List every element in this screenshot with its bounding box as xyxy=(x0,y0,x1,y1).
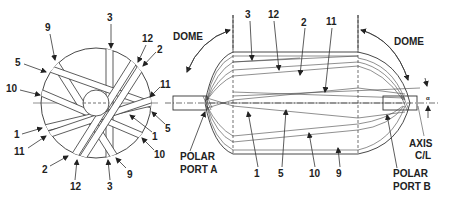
side-label-2: 2 xyxy=(301,17,307,28)
side-label-11: 11 xyxy=(326,16,337,27)
label-11-right: 11 xyxy=(160,79,171,90)
label-9-top: 9 xyxy=(45,22,51,33)
end-view: 9 3 12 2 5 10 11 5 1 1 11 10 2 12 3 9 xyxy=(6,12,171,192)
polar-port-b-label-line2: PORT B xyxy=(393,181,431,192)
label-12-top: 12 xyxy=(142,33,154,44)
polar-port-a-label-line1: POLAR xyxy=(180,151,216,162)
axis-label-line1: AXIS xyxy=(409,138,433,149)
label-12-bottom: 12 xyxy=(70,181,82,192)
side-label-12: 12 xyxy=(268,9,280,20)
polar-port-b-label-line1: POLAR xyxy=(393,168,429,179)
label-5-left: 5 xyxy=(15,57,21,68)
label-5-right: 5 xyxy=(165,123,171,134)
label-3-bottom: 3 xyxy=(107,181,113,192)
label-3-top: 3 xyxy=(107,12,113,23)
polar-port-a-label-line2: PORT A xyxy=(180,164,217,175)
side-label-9: 9 xyxy=(336,168,342,179)
label-2-top: 2 xyxy=(157,44,163,55)
winding-diagram: 9 3 12 2 5 10 11 5 1 1 11 10 2 12 3 9 xyxy=(0,0,451,201)
label-11-left: 11 xyxy=(14,146,25,157)
side-label-10: 10 xyxy=(309,168,321,179)
label-2-bottom: 2 xyxy=(42,164,48,175)
dome-right-label: DOME xyxy=(394,36,424,47)
side-view: DOME DOME 3 12 2 11 1 5 10 9 POLAR PORT … xyxy=(165,9,440,192)
axis-label-line2: C/L xyxy=(415,150,431,161)
side-label-3: 3 xyxy=(245,9,251,20)
dome-left-label: DOME xyxy=(173,31,203,42)
label-1-right: 1 xyxy=(152,131,158,142)
label-10-left: 10 xyxy=(6,83,18,94)
side-label-5: 5 xyxy=(278,168,284,179)
alpha-angle-label: α xyxy=(426,95,430,101)
side-label-1: 1 xyxy=(254,168,260,179)
label-9-bottom: 9 xyxy=(127,169,133,180)
label-10-right: 10 xyxy=(154,149,166,160)
label-1-left: 1 xyxy=(14,129,20,140)
